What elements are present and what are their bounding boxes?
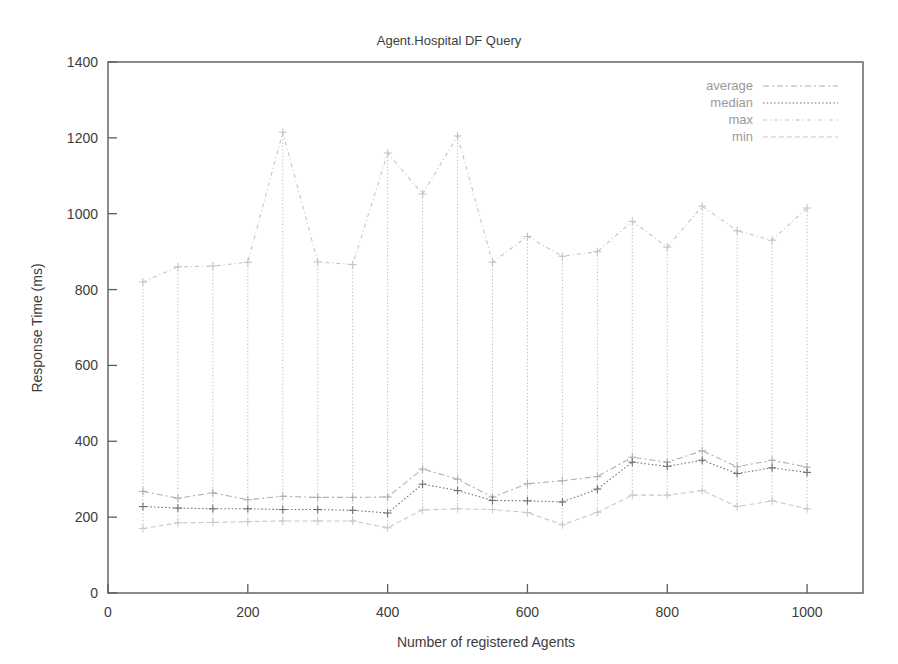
marker-max [454, 132, 462, 140]
marker-median [698, 456, 706, 464]
marker-median [244, 505, 252, 513]
marker-median [209, 505, 217, 513]
marker-median [663, 462, 671, 470]
y-tick-label: 1000 [67, 206, 98, 222]
marker-average [244, 496, 252, 504]
marker-min [244, 518, 252, 526]
marker-min [139, 525, 147, 533]
x-tick-label: 200 [236, 604, 260, 620]
marker-max [279, 128, 287, 136]
marker-max [244, 258, 252, 266]
marker-max [139, 278, 147, 286]
y-tick-label: 600 [75, 357, 99, 373]
marker-median [349, 506, 357, 514]
marker-min [768, 497, 776, 505]
marker-min [803, 505, 811, 513]
marker-average [558, 477, 566, 485]
chart-container: Agent.Hospital DF Query Response Time (m… [0, 0, 898, 664]
x-tick-label: 1000 [791, 604, 822, 620]
x-tick-label: 400 [376, 604, 400, 620]
marker-min [593, 509, 601, 517]
marker-min [314, 517, 322, 525]
legend-label-min: min [732, 129, 753, 144]
y-tick-label: 1400 [67, 54, 98, 70]
y-tick-label: 1200 [67, 130, 98, 146]
x-tick-label: 600 [516, 604, 540, 620]
series-line-min [143, 491, 807, 529]
marker-average [698, 447, 706, 455]
marker-median [523, 497, 531, 505]
marker-max [523, 232, 531, 240]
data-markers [139, 128, 811, 532]
marker-min [628, 491, 636, 499]
marker-min [279, 517, 287, 525]
marker-average [139, 487, 147, 495]
marker-median [768, 464, 776, 472]
marker-min [663, 491, 671, 499]
marker-min [384, 524, 392, 532]
marker-min [523, 509, 531, 517]
marker-min [733, 503, 741, 511]
chart-legend: averagemedianmaxmin [706, 78, 838, 144]
chart-svg: Agent.Hospital DF Query Response Time (m… [0, 0, 898, 664]
marker-average [768, 456, 776, 464]
marker-max [768, 236, 776, 244]
marker-median [139, 503, 147, 511]
marker-median [558, 498, 566, 506]
whisker-lines [143, 132, 807, 528]
marker-min [454, 505, 462, 513]
chart-title: Agent.Hospital DF Query [377, 33, 522, 48]
legend-label-median: median [710, 95, 753, 110]
marker-median [488, 496, 496, 504]
x-tick-label: 800 [656, 604, 680, 620]
marker-average [419, 465, 427, 473]
marker-median [174, 504, 182, 512]
marker-max [384, 149, 392, 157]
y-tick-label: 400 [75, 433, 99, 449]
marker-average [314, 493, 322, 501]
legend-label-max: max [728, 112, 753, 127]
marker-average [733, 463, 741, 471]
marker-max [663, 243, 671, 251]
marker-min [174, 519, 182, 527]
x-axis-ticks: 02004006008001000 [104, 584, 823, 620]
x-axis-label: Number of registered Agents [397, 634, 575, 650]
marker-average [174, 494, 182, 502]
legend-label-average: average [706, 78, 753, 93]
marker-median [803, 468, 811, 476]
x-tick-label: 0 [104, 604, 112, 620]
marker-max [174, 263, 182, 271]
marker-max [698, 202, 706, 210]
marker-median [593, 485, 601, 493]
marker-median [454, 487, 462, 495]
marker-max [349, 261, 357, 269]
marker-median [314, 506, 322, 514]
marker-average [454, 475, 462, 483]
marker-min [209, 518, 217, 526]
y-axis-label: Response Time (ms) [29, 263, 45, 392]
marker-min [349, 517, 357, 525]
marker-max [209, 262, 217, 270]
series-line-average [143, 451, 807, 500]
marker-min [488, 506, 496, 514]
marker-average [279, 492, 287, 500]
marker-median [279, 506, 287, 514]
data-series [143, 132, 807, 528]
marker-average [523, 480, 531, 488]
series-line-max [143, 132, 807, 282]
marker-median [733, 470, 741, 478]
marker-min [698, 487, 706, 495]
marker-max [488, 258, 496, 266]
marker-average [384, 493, 392, 501]
marker-max [314, 258, 322, 266]
marker-max [733, 227, 741, 235]
marker-min [558, 521, 566, 529]
marker-average [209, 489, 217, 497]
marker-average [593, 473, 601, 481]
y-tick-label: 0 [90, 585, 98, 601]
y-tick-label: 200 [75, 509, 99, 525]
marker-average [349, 493, 357, 501]
marker-median [628, 458, 636, 466]
y-tick-label: 800 [75, 282, 99, 298]
marker-max [558, 252, 566, 260]
